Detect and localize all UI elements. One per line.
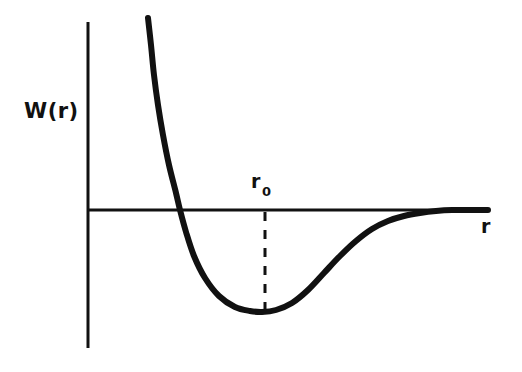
x-axis-label: r (481, 217, 491, 236)
r0-symbol: r (251, 170, 261, 192)
r0-subscript: 0 (262, 184, 272, 199)
r0-annotation-label: r0 (251, 172, 270, 195)
potential-energy-figure: W(r) r r0 (0, 0, 522, 372)
y-axis-label: W(r) (24, 101, 79, 122)
potential-curve (148, 18, 488, 312)
